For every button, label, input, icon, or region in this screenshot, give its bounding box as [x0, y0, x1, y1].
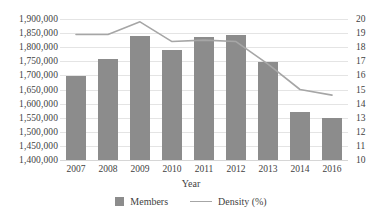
combo-chart: 1,900,0001,850,0001,800,0001,750,0001,70…: [0, 0, 382, 221]
y-axis-left-tick: 1,550,000: [19, 113, 58, 123]
x-axis-title: Year: [0, 178, 382, 189]
y-axis-right-tick: 19: [356, 28, 366, 38]
x-axis-tick-2013: 2013: [252, 163, 284, 175]
y-axis-right-tick: 14: [356, 99, 366, 109]
x-axis-tick-2007: 2007: [60, 163, 92, 175]
y-axis-left-tick: 1,800,000: [19, 42, 58, 52]
legend-swatch-bar-icon: [115, 197, 124, 206]
y-axis-right-tick: 15: [356, 85, 366, 95]
y-axis-right-tick: 11: [356, 141, 365, 151]
density-polyline: [76, 22, 332, 95]
y-axis-left-tick: 1,500,000: [19, 127, 58, 137]
x-axis-tick-2008: 2008: [92, 163, 124, 175]
chart-legend: Members Density (%): [0, 196, 382, 207]
legend-swatch-line-icon: [190, 201, 212, 202]
y-axis-left-tick: 1,450,000: [19, 141, 58, 151]
y-axis-right-tick: 16: [356, 70, 366, 80]
x-axis-tick-2012: 2012: [220, 163, 252, 175]
legend-label-density: Density (%): [218, 196, 267, 207]
y-axis-left-tick: 1,900,000: [19, 14, 58, 24]
x-axis-categories: 200720082009201020112012201320142016: [60, 163, 348, 177]
legend-label-members: Members: [130, 196, 168, 207]
y-axis-left-tick: 1,850,000: [19, 28, 58, 38]
y-axis-right-tick: 17: [356, 56, 366, 66]
x-axis-tick-2010: 2010: [156, 163, 188, 175]
x-axis-tick-2014: 2014: [284, 163, 316, 175]
y-axis-left-tick: 1,700,000: [19, 70, 58, 80]
y-axis-right-tick: 13: [356, 113, 366, 123]
y-axis-right-tick: 10: [356, 155, 366, 165]
y-axis-right-tick: 12: [356, 127, 366, 137]
y-axis-left-tick: 1,600,000: [19, 99, 58, 109]
y-axis-left-tick: 1,400,000: [19, 155, 58, 165]
plot-area: [60, 19, 348, 160]
y-axis-right-tick: 18: [356, 42, 366, 52]
x-axis-tick-2011: 2011: [188, 163, 220, 175]
legend-item-density: Density (%): [190, 196, 267, 207]
x-axis-tick-2009: 2009: [124, 163, 156, 175]
line-series-density: [60, 19, 348, 160]
gridline: [60, 160, 348, 161]
x-axis-tick-2016: 2016: [316, 163, 348, 175]
y-axis-left-tick: 1,650,000: [19, 85, 58, 95]
y-axis-left-tick: 1,750,000: [19, 56, 58, 66]
legend-item-members: Members: [115, 196, 168, 207]
y-axis-right-tick: 20: [356, 14, 366, 24]
